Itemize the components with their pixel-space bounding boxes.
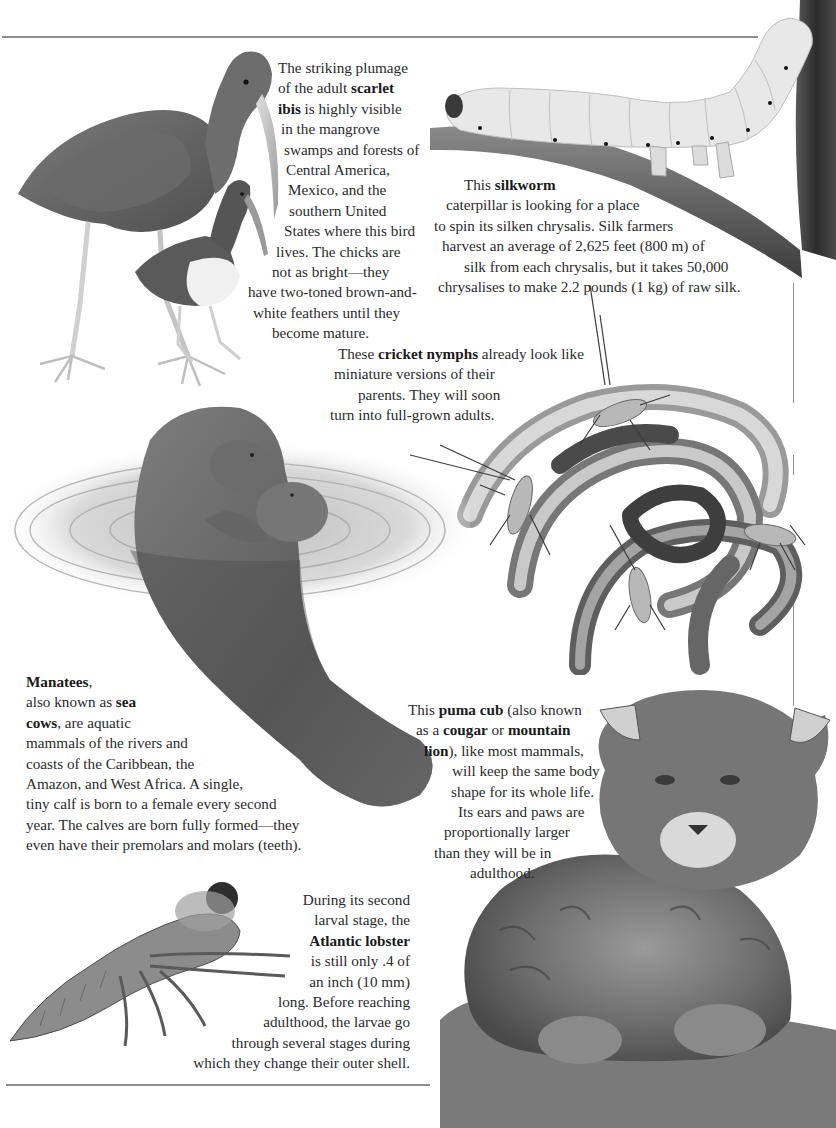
subject-bold: mountain <box>508 721 570 738</box>
caption-text: as a <box>416 721 443 738</box>
caption-text: also known as <box>26 693 116 710</box>
caption-text: southern United <box>289 202 386 219</box>
caption-text: become mature. <box>272 324 369 341</box>
caption-text: These <box>338 345 378 362</box>
caption-text: white feathers until they <box>253 304 400 321</box>
caption-text: adulthood, the larvae go <box>263 1013 410 1030</box>
caption-text: long. Before reaching <box>278 993 410 1010</box>
caption-text: through several stages during <box>232 1034 410 1051</box>
caption-text: miniature versions of their <box>334 365 495 382</box>
caption-text: to spin its silken chrysalis. Silk farme… <box>434 217 673 234</box>
book-page: The striking plumage of the adult scarle… <box>0 0 836 1128</box>
caption-text: ), like most mammals, <box>448 742 583 759</box>
caption-text: which they change their outer shell. <box>193 1054 410 1071</box>
subject-bold: Manatees <box>26 673 88 690</box>
caption-text: swamps and forests of <box>284 141 419 158</box>
subject-bold: puma cub <box>439 701 504 718</box>
scarlet-ibis-caption: The striking plumage of the adult scarle… <box>238 58 408 344</box>
caption-text: year. The calves are born fully formed—t… <box>26 816 299 833</box>
caption-text: proportionally larger <box>444 823 570 840</box>
caption-text: will keep the same body <box>452 762 600 779</box>
lobster-caption: During its second larval stage, the Atla… <box>172 890 410 1074</box>
caption-text: lives. The chicks are <box>276 243 401 260</box>
subject-bold: cows <box>26 714 57 731</box>
caption-text: in the mangrove <box>281 120 380 137</box>
subject-bold: cougar <box>443 721 488 738</box>
caption-text: or <box>488 721 508 738</box>
caption-text: During its second <box>303 891 410 908</box>
caption-text: This <box>464 176 495 193</box>
top-rule <box>2 36 478 38</box>
caption-text: than they will be in <box>434 844 551 861</box>
caption-text: , are aquatic <box>57 714 131 731</box>
puma-cub-caption: This puma cub (also known as a cougar or… <box>400 700 600 884</box>
caption-text: even have their premolars and molars (te… <box>26 836 301 853</box>
subject-bold: lion <box>424 742 448 759</box>
caption-text: States where this bird <box>284 222 415 239</box>
caption-text: The striking plumage <box>278 59 408 76</box>
caption-text: Its ears and paws are <box>458 803 585 820</box>
caption-text: is still only .4 of <box>311 952 410 969</box>
caption-text: an inch (10 mm) <box>309 973 410 990</box>
caption-text: coasts of the Caribbean, the <box>26 755 194 772</box>
caption-text: silk from each chrysalis, but it takes 5… <box>464 258 728 275</box>
bottom-rule <box>6 1084 430 1086</box>
caption-text: This <box>408 701 439 718</box>
caption-text: not as bright—they <box>272 263 389 280</box>
caption-text: Central America, <box>286 161 390 178</box>
subject-bold: Atlantic lobster <box>309 932 410 949</box>
caption-text: Mexico, and the <box>288 181 386 198</box>
subject-bold: ibis <box>278 100 301 117</box>
caption-text: harvest an average of 2,625 feet (800 m)… <box>442 237 705 254</box>
caption-text: (also known <box>503 701 581 718</box>
silkworm-caption: This silkworm caterpillar is looking for… <box>440 175 740 297</box>
subject-bold: cricket nymphs <box>378 345 478 362</box>
caption-text: adulthood. <box>470 864 535 881</box>
subject-bold: silkworm <box>495 176 556 193</box>
caption-text: caterpillar is looking for a place <box>446 196 640 213</box>
caption-text: , <box>88 673 92 690</box>
caption-text: of the adult <box>278 79 351 96</box>
caption-text: is highly visible <box>301 100 402 117</box>
caption-text: Amazon, and West Africa. A single, <box>26 775 243 792</box>
manatee-caption: Manatees, also known as sea cows, are aq… <box>26 672 301 856</box>
caption-text: mammals of the rivers and <box>26 734 188 751</box>
caption-text: larval stage, the <box>314 911 410 928</box>
caption-text: have two-toned brown-and- <box>248 283 417 300</box>
caption-text: tiny calf is born to a female every seco… <box>26 795 277 812</box>
caption-text: already look like <box>478 345 584 362</box>
subject-bold: sea <box>116 693 136 710</box>
caption-text: shape for its whole life. <box>451 783 594 800</box>
subject-bold: scarlet <box>351 79 394 96</box>
